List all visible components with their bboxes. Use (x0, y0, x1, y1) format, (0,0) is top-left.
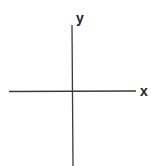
coordinate-axes-diagram: y x (0, 0, 160, 166)
y-axis-line (72, 25, 73, 166)
x-axis-label: x (140, 84, 148, 98)
y-axis-label: y (76, 11, 84, 25)
